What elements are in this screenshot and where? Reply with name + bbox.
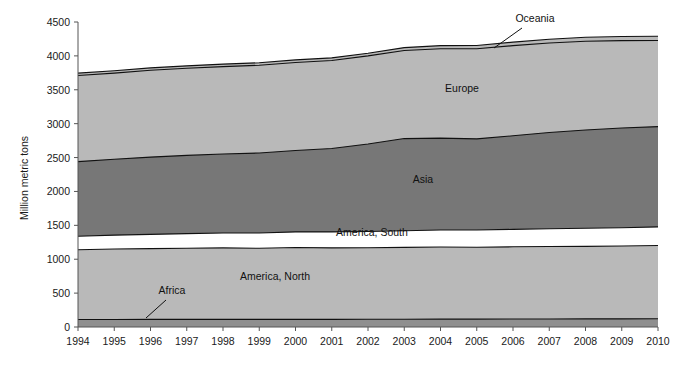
series-label-america-south: America, South [336,226,408,238]
y-tick-label: 0 [64,321,70,333]
y-tick-label: 2500 [47,152,71,164]
y-tick-label: 1500 [47,219,71,231]
x-tick-label: 1995 [103,335,127,347]
x-tick-label: 2009 [610,335,634,347]
x-tick-label: 2000 [284,335,308,347]
series-label-asia: Asia [413,173,434,185]
x-tick-label: 1994 [66,335,90,347]
series-label-africa: Africa [159,284,186,296]
x-tick-label: 2004 [429,335,453,347]
y-tick-label: 1000 [47,253,71,265]
y-tick-label: 3000 [47,118,71,130]
x-tick-label: 1999 [248,335,272,347]
area-band-africa [78,319,658,327]
x-tick-label: 2003 [393,335,417,347]
y-tick-label: 500 [52,287,70,299]
x-tick-label: 2006 [501,335,525,347]
x-tick-label: 1998 [211,335,235,347]
x-tick-label: 2002 [356,335,380,347]
y-axis-title: Million metric tons [18,136,30,220]
series-label-europe: Europe [445,82,479,94]
x-tick-label: 2007 [538,335,562,347]
series-label-oceania: Oceania [515,12,554,24]
chart-canvas: 0500100015002000250030003500400045001994… [0,0,682,365]
stacked-area-chart: 0500100015002000250030003500400045001994… [0,0,682,365]
x-tick-label: 1997 [175,335,199,347]
y-tick-label: 2000 [47,185,71,197]
y-tick-label: 4000 [47,50,71,62]
series-label-america-north: America, North [240,270,310,282]
y-tick-label: 4500 [47,16,71,28]
x-tick-label: 2001 [320,335,344,347]
x-tick-label: 2008 [574,335,598,347]
x-tick-label: 1996 [139,335,163,347]
x-tick-label: 2005 [465,335,489,347]
x-tick-label: 2010 [646,335,670,347]
y-tick-label: 3500 [47,84,71,96]
